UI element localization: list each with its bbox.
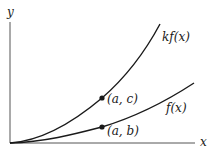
point-label-a-c: (a, c) — [107, 92, 138, 106]
point-a-b — [99, 124, 104, 129]
curve-label-kfx: kf(x) — [162, 30, 190, 44]
point-label-a-b: (a, b) — [107, 124, 139, 138]
point-a-c — [99, 95, 104, 100]
y-axis-label: y — [6, 5, 14, 19]
x-axis-label: x — [200, 135, 207, 149]
diagram-canvas: y x kf(x) f(x) (a, c) (a, b) — [0, 0, 211, 158]
curve-label-fx: f(x) — [165, 101, 187, 115]
